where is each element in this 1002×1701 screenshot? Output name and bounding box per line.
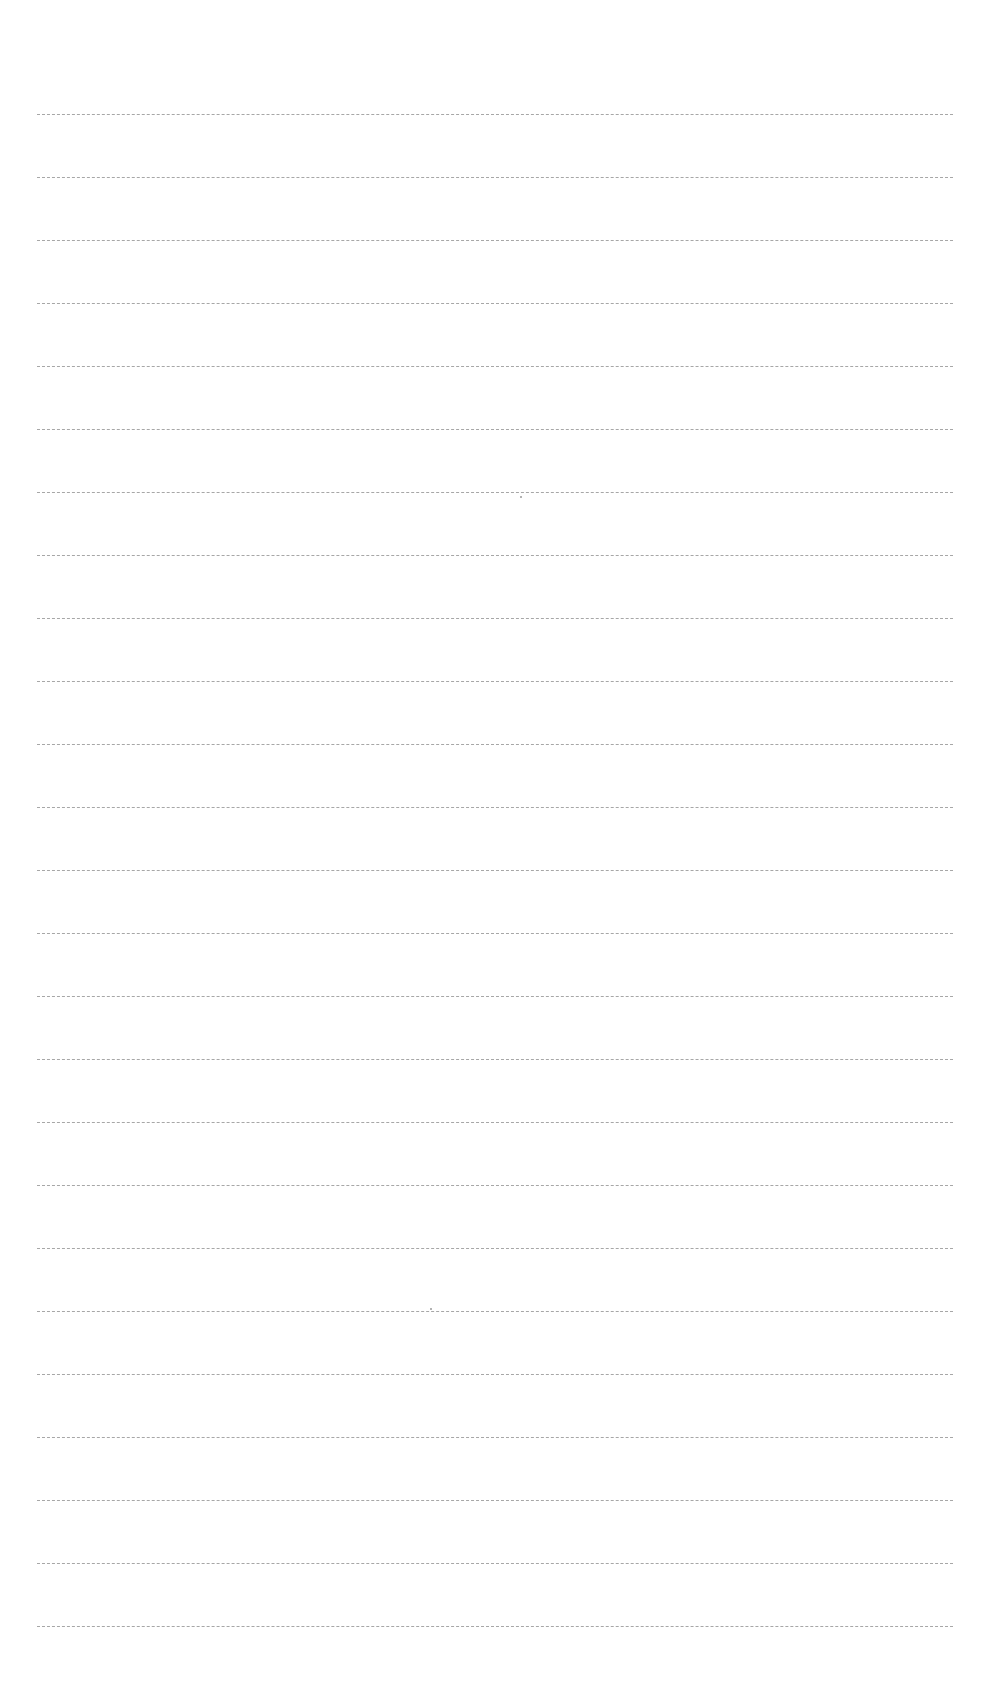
ruled-line [37,1248,953,1250]
ruled-line [37,1311,953,1313]
ruled-line [37,1374,953,1376]
ruled-line [37,114,953,116]
paper-speck [430,1308,432,1310]
ruled-line [37,870,953,872]
ruled-line [37,1563,953,1565]
ruled-line [37,681,953,683]
ruled-line [37,1185,953,1187]
ruled-line [37,933,953,935]
ruled-line [37,618,953,620]
ruled-line [37,555,953,557]
ruled-line [37,303,953,305]
ruled-paper-page [0,0,1002,1701]
ruled-line [37,240,953,242]
ruled-line [37,1626,953,1628]
paper-speck [520,496,522,498]
ruled-line [37,1437,953,1439]
ruled-line [37,1059,953,1061]
ruled-line [37,996,953,998]
ruled-line [37,177,953,179]
ruled-line [37,429,953,431]
ruled-line [37,492,953,494]
ruled-line [37,807,953,809]
ruled-line [37,744,953,746]
ruled-line [37,1122,953,1124]
ruled-line [37,366,953,368]
ruled-line [37,1500,953,1502]
